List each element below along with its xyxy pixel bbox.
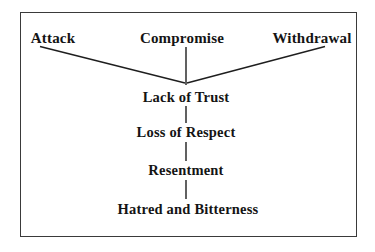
node-lack-of-trust: Lack of Trust <box>143 89 230 106</box>
node-loss-of-respect: Loss of Respect <box>137 124 236 141</box>
node-compromise: Compromise <box>140 30 224 47</box>
node-attack: Attack <box>31 30 76 47</box>
node-hatred-and-bitterness: Hatred and Bitterness <box>118 201 259 218</box>
node-withdrawal: Withdrawal <box>272 30 351 47</box>
diagram-canvas: Attack Compromise Withdrawal Lack of Tru… <box>0 0 375 252</box>
node-resentment: Resentment <box>148 162 223 179</box>
